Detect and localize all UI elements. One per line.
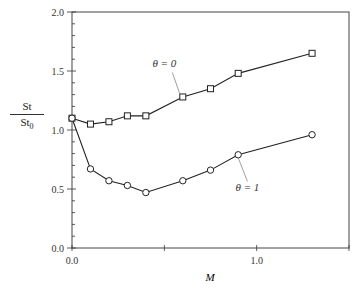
square-marker — [180, 94, 186, 100]
circle-marker — [235, 152, 241, 158]
circle-marker — [106, 178, 112, 184]
chart: 0.00.51.01.52.00.01.0 θ = 0θ = 1 M — [0, 0, 354, 291]
circle-marker — [124, 182, 130, 188]
series-theta-0 — [69, 50, 315, 127]
y-tick-label: 0.0 — [52, 243, 65, 254]
circle-marker — [69, 115, 75, 121]
square-marker — [309, 50, 315, 56]
circle-marker — [207, 167, 213, 173]
y-tick-label: 1.5 — [52, 66, 65, 77]
data-series — [69, 50, 315, 195]
y-tick-label: 0.5 — [52, 184, 65, 195]
y-tick-label: 2.0 — [52, 7, 65, 18]
square-marker — [235, 70, 241, 76]
annotation-label: θ = 1 — [236, 181, 260, 193]
y-axis-label-denominator: St0 — [10, 115, 44, 133]
x-tick-label: 0.0 — [66, 255, 79, 266]
series-line — [72, 53, 312, 124]
square-marker — [208, 86, 214, 92]
series-theta-1 — [69, 115, 315, 196]
tick-labels: 0.00.51.01.52.00.01.0 — [52, 7, 263, 266]
annotations: θ = 0θ = 1 — [152, 57, 259, 193]
annotation-label: θ = 0 — [152, 57, 176, 69]
axis-ticks — [67, 12, 349, 251]
circle-marker — [180, 178, 186, 184]
circle-marker — [87, 166, 93, 172]
square-marker — [106, 119, 112, 125]
circle-marker — [143, 189, 149, 195]
x-axis-label: M — [204, 271, 215, 283]
y-tick-label: 1.0 — [52, 125, 65, 136]
circle-marker — [309, 132, 315, 138]
y-axis-label-numerator: St — [10, 100, 44, 115]
y-axis-label: St St0 — [10, 100, 44, 133]
square-marker — [124, 113, 130, 119]
x-tick-label: 1.0 — [250, 255, 263, 266]
annotation-leader-line — [238, 158, 247, 182]
plot-border — [72, 12, 349, 248]
annotation-leader-line — [172, 72, 179, 94]
square-marker — [143, 113, 149, 119]
square-marker — [87, 121, 93, 127]
plot-frame — [72, 12, 349, 248]
